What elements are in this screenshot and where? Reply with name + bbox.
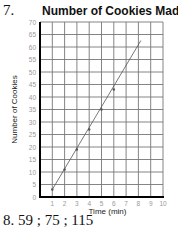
x-tick-label: 7: [124, 200, 128, 207]
line-chart: 051015202530354045505560657012345678910T…: [0, 0, 178, 232]
data-point: [100, 108, 102, 110]
data-point: [63, 168, 65, 170]
data-point: [113, 88, 115, 90]
y-tick-label: 40: [29, 94, 37, 101]
y-tick-label: 60: [29, 44, 37, 51]
y-tick-label: 70: [29, 19, 37, 26]
x-tick-label: 10: [159, 200, 167, 207]
y-tick-label: 25: [29, 131, 37, 138]
data-point: [51, 188, 53, 190]
x-axis-label: Time (min): [89, 207, 127, 216]
x-tick-label: 3: [75, 200, 79, 207]
y-tick-label: 50: [29, 69, 37, 76]
x-tick-label: 2: [63, 200, 67, 207]
x-tick-label: 5: [100, 200, 104, 207]
y-tick-label: 20: [29, 144, 37, 151]
y-tick-label: 55: [29, 56, 37, 63]
y-tick-label: 45: [29, 81, 37, 88]
y-tick-label: 15: [29, 156, 37, 163]
y-tick-label: 0: [32, 194, 36, 201]
y-tick-label: 5: [32, 181, 36, 188]
x-tick-label: 4: [87, 200, 91, 207]
y-axis-label: Number of Cookies: [10, 75, 19, 143]
y-tick-label: 35: [29, 106, 37, 113]
data-point: [76, 148, 78, 150]
y-tick-label: 65: [29, 31, 37, 38]
x-tick-label: 9: [149, 200, 153, 207]
x-tick-label: 6: [112, 200, 116, 207]
y-tick-label: 10: [29, 169, 37, 176]
y-tick-label: 30: [29, 119, 37, 126]
data-point: [88, 128, 90, 130]
answer-line: 8. 59 ; 75 ; 115: [3, 212, 93, 229]
x-tick-label: 8: [137, 200, 141, 207]
x-tick-label: 1: [50, 200, 54, 207]
trend-line: [52, 41, 141, 190]
